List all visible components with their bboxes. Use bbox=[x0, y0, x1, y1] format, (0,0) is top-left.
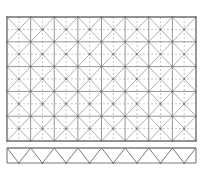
grid-node bbox=[171, 140, 173, 142]
grid-node bbox=[148, 41, 150, 43]
center-node bbox=[183, 53, 185, 55]
truss-web bbox=[78, 148, 90, 163]
grid-node bbox=[6, 90, 8, 92]
center-node bbox=[89, 53, 91, 55]
grid-node bbox=[124, 41, 126, 43]
truss-web bbox=[31, 148, 43, 163]
grid-node bbox=[6, 66, 8, 68]
center-node bbox=[65, 128, 67, 130]
grid-node bbox=[101, 41, 103, 43]
center-node bbox=[159, 78, 161, 80]
center-node bbox=[89, 78, 91, 80]
center-node bbox=[41, 128, 43, 130]
center-node bbox=[183, 78, 185, 80]
grid-node bbox=[53, 66, 55, 68]
grid-node bbox=[195, 140, 197, 142]
grid-node bbox=[148, 140, 150, 142]
grid-node bbox=[30, 115, 32, 117]
grid-node bbox=[148, 66, 150, 68]
truss-web bbox=[149, 148, 161, 163]
grid-node bbox=[124, 140, 126, 142]
truss-web bbox=[19, 148, 31, 163]
grid-node bbox=[195, 16, 197, 18]
truss-web bbox=[7, 148, 19, 163]
truss-web bbox=[125, 148, 137, 163]
grid-node bbox=[124, 66, 126, 68]
truss-node bbox=[65, 162, 67, 164]
center-node bbox=[136, 53, 138, 55]
grid-node bbox=[53, 41, 55, 43]
truss-node bbox=[18, 162, 20, 164]
grid-node bbox=[77, 41, 79, 43]
truss-node bbox=[136, 162, 138, 164]
grid-node bbox=[30, 16, 32, 18]
grid-node bbox=[171, 115, 173, 117]
space-frame-plan bbox=[0, 0, 203, 177]
grid-node bbox=[77, 16, 79, 18]
truss-web bbox=[42, 148, 54, 163]
grid-node bbox=[101, 16, 103, 18]
grid-node bbox=[53, 90, 55, 92]
grid-node bbox=[30, 41, 32, 43]
center-node bbox=[136, 128, 138, 130]
truss-node bbox=[89, 162, 91, 164]
center-node bbox=[136, 78, 138, 80]
grid-node bbox=[77, 66, 79, 68]
grid-node bbox=[53, 115, 55, 117]
center-node bbox=[112, 103, 114, 105]
center-node bbox=[18, 78, 20, 80]
grid-node bbox=[101, 66, 103, 68]
truss-web bbox=[54, 148, 66, 163]
center-node bbox=[65, 28, 67, 30]
grid-node bbox=[124, 16, 126, 18]
center-node bbox=[65, 103, 67, 105]
center-node bbox=[41, 28, 43, 30]
grid-node bbox=[53, 16, 55, 18]
grid-node bbox=[148, 90, 150, 92]
grid-node bbox=[171, 16, 173, 18]
grid-node bbox=[171, 66, 173, 68]
grid-node bbox=[6, 115, 8, 117]
truss-web bbox=[66, 148, 78, 163]
center-node bbox=[89, 128, 91, 130]
center-node bbox=[18, 103, 20, 105]
center-node bbox=[183, 128, 185, 130]
center-node bbox=[183, 103, 185, 105]
center-node bbox=[159, 28, 161, 30]
truss-web bbox=[161, 148, 173, 163]
center-node bbox=[41, 78, 43, 80]
truss-web bbox=[184, 148, 196, 163]
truss-web bbox=[113, 148, 125, 163]
grid-node bbox=[148, 115, 150, 117]
center-node bbox=[41, 103, 43, 105]
grid-node bbox=[171, 41, 173, 43]
truss-web bbox=[172, 148, 184, 163]
grid-node bbox=[195, 90, 197, 92]
center-node bbox=[136, 28, 138, 30]
truss-web bbox=[137, 148, 149, 163]
center-node bbox=[112, 128, 114, 130]
grid-node bbox=[30, 66, 32, 68]
truss-web bbox=[102, 148, 114, 163]
truss-node bbox=[183, 162, 185, 164]
center-node bbox=[18, 28, 20, 30]
center-node bbox=[183, 28, 185, 30]
grid-node bbox=[195, 66, 197, 68]
grid-node bbox=[195, 41, 197, 43]
center-node bbox=[18, 53, 20, 55]
grid-node bbox=[30, 90, 32, 92]
grid-node bbox=[77, 115, 79, 117]
grid-node bbox=[101, 115, 103, 117]
center-node bbox=[159, 53, 161, 55]
grid-node bbox=[148, 16, 150, 18]
grid-node bbox=[53, 140, 55, 142]
grid-node bbox=[195, 115, 197, 117]
diagram-canvas bbox=[0, 0, 203, 177]
grid-node bbox=[30, 140, 32, 142]
grid-node bbox=[77, 90, 79, 92]
center-node bbox=[89, 103, 91, 105]
center-node bbox=[159, 128, 161, 130]
truss-node bbox=[112, 162, 114, 164]
truss-node bbox=[41, 162, 43, 164]
center-node bbox=[112, 53, 114, 55]
